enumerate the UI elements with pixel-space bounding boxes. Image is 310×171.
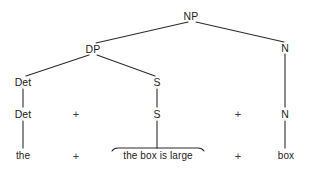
tree-node-n_lower: N <box>281 109 289 120</box>
tree-node-np: NP <box>184 11 199 22</box>
tree-node-plus_4: + <box>235 151 242 162</box>
tree-node-det_upper: Det <box>15 77 32 88</box>
tree-node-n_upper: N <box>281 43 289 54</box>
tree-edge-dp-to-s_upper <box>97 55 155 76</box>
tree-node-the: the <box>16 151 30 161</box>
tree-node-dp: DP <box>86 44 101 55</box>
tree-node-plus_1: + <box>73 109 80 120</box>
tree-node-plus_2: + <box>235 109 242 120</box>
tree-node-box: box <box>278 151 294 161</box>
tree-node-det_lower: Det <box>15 109 32 120</box>
syntax-tree-figure: NPDPNDetSDetSN++the+the box is large+box <box>0 0 310 171</box>
tree-node-plus_3: + <box>73 151 80 162</box>
tree-edge-np-to-dp <box>96 22 188 43</box>
tree-node-clause: the box is large <box>123 151 192 161</box>
tree-node-s_upper: S <box>153 77 160 88</box>
tree-node-s_lower: S <box>153 109 160 120</box>
tree-edge-np-to-n_upper <box>196 22 284 42</box>
tree-edge-dp-to-det_upper <box>26 55 89 76</box>
